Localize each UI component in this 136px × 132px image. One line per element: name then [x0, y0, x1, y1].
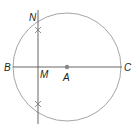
- label-C: C: [124, 62, 132, 73]
- geometry-diagram: B C A M N: [0, 0, 136, 132]
- center-point-A: [65, 65, 69, 69]
- label-M: M: [40, 69, 49, 80]
- label-A: A: [62, 72, 70, 83]
- label-B: B: [4, 62, 11, 73]
- label-N: N: [29, 12, 37, 23]
